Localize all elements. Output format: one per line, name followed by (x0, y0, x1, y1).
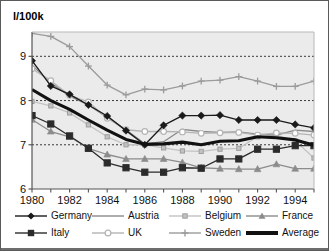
legend-item-average[interactable]: Average (244, 224, 318, 241)
legend-marker-italy-icon (13, 226, 49, 240)
legend-marker-austria-icon (90, 209, 126, 223)
data-point (142, 129, 148, 135)
legend-item-uk[interactable]: UK (90, 224, 167, 241)
x-tick-label: 1980 (20, 194, 44, 206)
legend-item-france[interactable]: France (244, 207, 318, 224)
data-point (274, 130, 280, 136)
y-tick-label: 9 (20, 50, 26, 62)
legend-marker-belgium-icon (167, 209, 203, 223)
bottom-divider (1, 248, 329, 250)
x-tick-label: 1982 (57, 194, 81, 206)
legend-label-average: Average (280, 227, 319, 238)
data-point (49, 104, 53, 108)
legend-label-sweden: Sweden (203, 227, 241, 238)
chart-legend: GermanyAustriaBelgiumFrance ItalyUKSwede… (13, 207, 318, 245)
data-point (198, 165, 204, 171)
data-point (124, 143, 128, 147)
x-tick-label: 1984 (95, 194, 119, 206)
data-point (104, 160, 110, 166)
x-tick-label: 1994 (283, 194, 307, 206)
legend-item-belgium[interactable]: Belgium (167, 207, 244, 224)
data-point (198, 130, 204, 136)
chart-frame: l/100k 678919801982198419861988199019921… (0, 0, 329, 251)
legend-item-italy[interactable]: Italy (13, 224, 90, 241)
data-point (67, 133, 73, 139)
data-point (255, 146, 261, 152)
y-tick-label: 8 (20, 95, 26, 107)
data-point (179, 165, 185, 171)
data-point (161, 169, 167, 175)
data-point (217, 156, 223, 162)
legend-row-1: GermanyAustriaBelgiumFrance (13, 207, 318, 224)
data-point (236, 130, 242, 136)
legend-marker-sweden-icon (167, 226, 203, 240)
data-point (105, 135, 109, 139)
data-point (123, 165, 129, 171)
legend-marker-uk-icon (90, 226, 126, 240)
data-point (180, 129, 186, 135)
legend-marker-average-icon (244, 226, 280, 240)
data-point (142, 169, 148, 175)
legend-row-2: ItalyUKSwedenAverage (13, 224, 318, 241)
legend-marker-france-icon (244, 209, 280, 223)
data-point (292, 143, 298, 149)
data-point (48, 121, 54, 127)
data-point (273, 146, 279, 152)
legend-label-france: France (280, 210, 313, 221)
x-tick-label: 1992 (245, 194, 269, 206)
data-point (292, 130, 298, 136)
data-point (236, 156, 242, 162)
legend-label-austria: Austria (126, 210, 159, 221)
legend-label-belgium: Belgium (203, 210, 241, 221)
data-point (199, 149, 203, 153)
data-point (180, 149, 184, 153)
data-point (86, 123, 90, 127)
legend-item-germany[interactable]: Germany (13, 207, 90, 224)
legend-item-sweden[interactable]: Sweden (167, 224, 244, 241)
data-point (217, 130, 223, 136)
legend-marker-germany-icon (13, 209, 49, 223)
data-point (162, 146, 166, 150)
legend-item-austria[interactable]: Austria (90, 207, 167, 224)
data-point (237, 146, 241, 150)
data-point (85, 145, 91, 151)
x-tick-label: 1988 (170, 194, 194, 206)
legend-label-uk: UK (126, 227, 142, 238)
x-tick-label: 1990 (208, 194, 232, 206)
legend-label-germany: Germany (49, 210, 92, 221)
data-point (218, 147, 222, 151)
y-tick-label: 7 (20, 139, 26, 151)
x-tick-label: 1986 (133, 194, 157, 206)
data-point (161, 129, 167, 135)
legend-label-italy: Italy (49, 227, 69, 238)
